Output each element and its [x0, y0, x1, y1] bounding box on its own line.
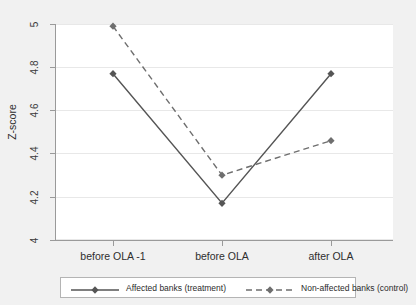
legend-label-treatment: Affected banks (treatment): [126, 283, 226, 293]
y-tick-mark-5: [50, 24, 55, 25]
x-tick-label-before-ola: before OLA: [195, 250, 249, 262]
y-tick-label-4-6-text: 4.6: [30, 103, 41, 117]
x-tick-mark-before-ola: [222, 241, 223, 246]
y-tick-label-4-8-text: 4.8: [30, 60, 41, 74]
y-tick-mark-4-2: [50, 197, 55, 198]
legend-entry-treatment[interactable]: Affected banks (treatment): [69, 278, 226, 297]
y-tick-label-5-text: 5: [30, 21, 41, 27]
y-tick-label-4-4: 4.4: [22, 146, 48, 160]
legend-entry-control[interactable]: Non-affected banks (control): [244, 278, 408, 297]
x-tick-label-after-ola: after OLA: [309, 250, 354, 262]
x-tick-label-before-ola-1: before OLA -1: [80, 250, 145, 262]
y-tick-mark-4-8: [50, 67, 55, 68]
x-tick-mark-after-ola: [331, 241, 332, 246]
legend-label-control: Non-affected banks (control): [301, 283, 408, 293]
gridline-5: [55, 24, 393, 25]
y-tick-mark-4-4: [50, 153, 55, 154]
legend-key-treatment: [69, 282, 121, 294]
gridline-4-6: [55, 110, 393, 111]
y-axis-title: Z-score: [6, 87, 18, 157]
y-tick-label-5: 5: [22, 17, 48, 31]
y-tick-label-4-2-text: 4.2: [30, 190, 41, 204]
gridline-4-8: [55, 67, 393, 68]
y-tick-label-4-2: 4.2: [22, 190, 48, 204]
y-tick-mark-4: [50, 240, 55, 241]
plot-area: [55, 24, 393, 240]
y-tick-label-4-4-text: 4.4: [30, 146, 41, 160]
x-axis-line: [55, 240, 393, 241]
y-axis-line: [55, 24, 56, 241]
chart-figure: 5 4.8 4.6 4.4 4.2 4 Z-score before OLA -…: [0, 0, 416, 305]
y-tick-label-4: 4: [22, 233, 48, 247]
y-tick-label-4-text: 4: [30, 237, 41, 243]
legend: Affected banks (treatment) Non-affected …: [60, 277, 356, 298]
gridline-4-2: [55, 197, 393, 198]
x-tick-mark-before-ola-1: [113, 241, 114, 246]
legend-key-control: [244, 282, 296, 294]
y-tick-mark-4-6: [50, 110, 55, 111]
y-tick-label-4-6: 4.6: [22, 103, 48, 117]
y-tick-label-4-8: 4.8: [22, 60, 48, 74]
gridline-4-4: [55, 153, 393, 154]
